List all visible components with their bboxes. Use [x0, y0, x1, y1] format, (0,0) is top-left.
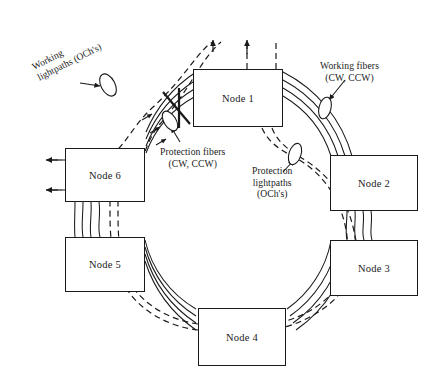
node-label: Node 4: [226, 332, 258, 343]
node-box-3[interactable]: Node 3: [330, 240, 418, 296]
protection-lightpaths-ellipse: [286, 142, 304, 167]
node-box-6[interactable]: Node 6: [65, 148, 145, 202]
figure-canvas: Node 1 Node 2 Node 3 Node 4 Node 5 Node …: [0, 0, 422, 384]
node-box-5[interactable]: Node 5: [65, 237, 145, 292]
annotation-protection-lightpaths: Protection lightpaths (OCh's): [252, 165, 292, 200]
fiber-vertical-connectors: [75, 202, 372, 240]
leader-working-lightpaths: [80, 83, 100, 86]
node-label: Node 1: [222, 93, 254, 104]
node-label: Node 6: [89, 170, 121, 181]
annotation-text: Working fibers (CW, CCW): [320, 60, 379, 83]
annotation-text: Protection lightpaths (OCh's): [252, 165, 292, 199]
node-box-1[interactable]: Node 1: [193, 69, 283, 127]
annotation-text: Protection fibers (CW, CCW): [160, 146, 225, 169]
node-label: Node 2: [358, 178, 390, 189]
node-box-2[interactable]: Node 2: [330, 155, 418, 211]
annotation-working-fibers: Working fibers (CW, CCW): [320, 60, 379, 83]
working-fibers-ellipse: [317, 96, 334, 120]
node-box-4[interactable]: Node 4: [198, 308, 286, 366]
node-label: Node 5: [89, 259, 121, 270]
node-label: Node 3: [358, 263, 390, 274]
annotation-protection-fibers: Protection fibers (CW, CCW): [160, 146, 225, 169]
working-lightpaths-ellipse: [96, 71, 120, 99]
